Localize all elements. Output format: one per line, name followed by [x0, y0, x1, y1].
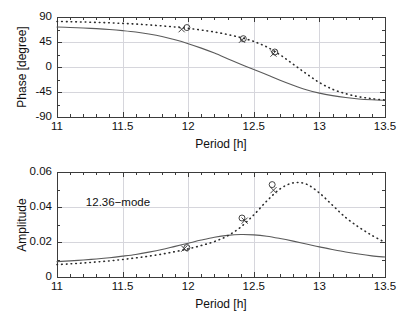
x-axis-tick-label: 11.5: [112, 121, 134, 133]
y-axis-tick-label: -45: [35, 86, 52, 98]
x-axis-tick-label: 13: [313, 121, 326, 133]
phase-y-axis-title: Phase [degree]: [16, 26, 28, 107]
amplitude-panel: Amplitude Period [h] 12.36−mode 1111.512…: [0, 158, 408, 318]
y-axis-tick-label: 0.02: [30, 236, 52, 248]
y-axis-tick-label: 0: [46, 271, 52, 283]
series-model-solid: [57, 234, 385, 261]
x-axis-tick-label: 11.5: [112, 281, 134, 293]
x-axis-tick-label: 13.5: [374, 281, 396, 293]
x-axis-tick-label: 12.5: [243, 281, 265, 293]
x-axis-tick-label: 13: [313, 281, 326, 293]
phase-panel: Phase [degree] Period [h] 1111.51212.513…: [0, 0, 408, 158]
x-axis-tick-label: 11: [51, 121, 63, 133]
amplitude-plot-area: [0, 158, 408, 318]
amplitude-x-axis-title: Period [h]: [195, 298, 246, 310]
plot-frame: [58, 173, 386, 278]
data-marker-cross: [271, 187, 277, 193]
y-axis-tick-label: -90: [35, 111, 52, 123]
mode-annotation-label: 12.36−mode: [86, 197, 150, 209]
y-axis-tick-label: 90: [39, 11, 52, 23]
amplitude-y-axis-title: Amplitude: [16, 198, 28, 251]
phase-plot-area: [0, 0, 408, 158]
y-axis-tick-label: 0: [46, 61, 52, 73]
x-axis-tick-label: 13.5: [374, 121, 396, 133]
series-observed-fit-dotted: [57, 182, 385, 264]
series-model-solid: [57, 27, 385, 100]
data-marker-circle: [269, 182, 275, 188]
y-axis-tick-label: 45: [39, 36, 52, 48]
x-axis-tick-label: 11: [51, 281, 63, 293]
x-axis-tick-label: 12.5: [243, 121, 265, 133]
x-axis-tick-label: 12: [182, 121, 195, 133]
data-marker-cross: [271, 51, 277, 57]
phase-x-axis-title: Period [h]: [195, 138, 246, 150]
y-axis-tick-label: 0.04: [30, 201, 52, 213]
data-marker-cross: [179, 26, 185, 32]
scientific-figure: Phase [degree] Period [h] 1111.51212.513…: [0, 0, 408, 318]
y-axis-tick-label: 0.06: [30, 166, 52, 178]
series-observed-fit-dotted: [57, 21, 385, 100]
x-axis-tick-label: 12: [182, 281, 195, 293]
